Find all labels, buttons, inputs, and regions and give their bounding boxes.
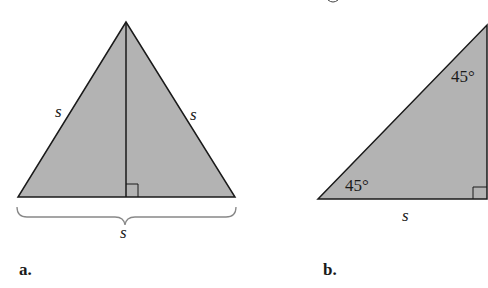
base-label: s (402, 206, 409, 225)
figure-a: s s s a. (17, 22, 236, 279)
left-side-label: s (55, 102, 62, 121)
base-label: s (120, 223, 127, 242)
right-isosceles-triangle (318, 25, 487, 199)
figure-canvas: s s s a. 45° 45° s b. (0, 0, 488, 288)
figure-b-label: b. (323, 260, 337, 279)
figure-a-label: a. (19, 260, 32, 279)
figure-b: 45° 45° s b. (318, 25, 487, 279)
top-angle-label: 45° (451, 67, 475, 86)
cropped-glyph (328, 0, 338, 2)
right-side-label: s (190, 105, 197, 124)
bottom-angle-label: 45° (345, 176, 369, 195)
